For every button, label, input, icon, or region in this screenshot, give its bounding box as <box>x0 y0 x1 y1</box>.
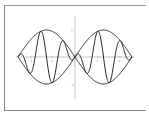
x-tick-label: -1 <box>51 59 54 63</box>
x-tick-label: 1 <box>97 59 99 63</box>
y-tick-label: -1 <box>71 83 74 87</box>
plot-area: -2-1121-1 <box>0 0 149 115</box>
y-tick-label: 1 <box>71 28 73 32</box>
x-tick-label: -2 <box>30 59 33 63</box>
x-tick-label: 2 <box>119 59 121 63</box>
